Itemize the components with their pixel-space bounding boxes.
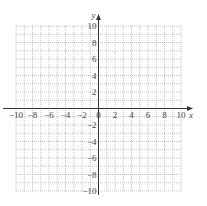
y-tick-label: −8 [87,170,97,180]
x-tick-label: 4 [129,110,134,120]
x-tick-label: −2 [77,110,87,120]
y-tick-label: −4 [87,137,97,147]
x-tick-label: 2 [113,110,118,120]
y-tick-label: −6 [87,153,97,163]
x-tick-label: −6 [44,110,54,120]
y-tick-label: 10 [88,21,98,31]
x-tick-label: 10 [177,110,187,120]
y-tick-label: −10 [82,186,97,196]
coordinate-plane: −10−8−6−4−20246810 −10−8−6−4−2246810 x y [0,0,207,206]
y-tick-label: 8 [92,38,97,48]
y-axis-label: y [91,10,96,20]
y-tick-label: 6 [92,54,97,64]
x-tick-label: 8 [162,110,167,120]
x-tick-label: −8 [28,110,38,120]
x-tick-label: −4 [61,110,71,120]
x-tick-label: 0 [96,110,101,120]
y-tick-label: 2 [92,87,97,97]
x-axis-label: x [188,110,193,120]
x-tick-labels: −10−8−6−4−20246810 [9,110,186,120]
y-axis-arrow-icon [96,14,101,20]
y-tick-label: 4 [92,71,97,81]
x-tick-label: −10 [9,110,24,120]
x-tick-label: 6 [146,110,151,120]
y-tick-label: −2 [87,120,97,130]
